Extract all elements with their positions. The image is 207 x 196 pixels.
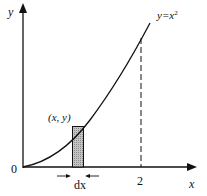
x-axis-arrow-icon bbox=[187, 163, 197, 171]
area-diagram: y x 0 2 (x, y) dx y=x2 bbox=[0, 0, 207, 196]
point-label: (x, y) bbox=[48, 111, 71, 124]
y-axis-label: y bbox=[7, 5, 14, 19]
y-axis-arrow-icon bbox=[19, 3, 27, 13]
curve-label: y=x2 bbox=[156, 9, 178, 21]
dx-label: dx bbox=[74, 178, 86, 192]
strip-rectangle bbox=[73, 127, 84, 168]
x-axis-label: x bbox=[188, 177, 195, 191]
dx-left-arrowhead-icon bbox=[66, 174, 71, 178]
origin-label: 0 bbox=[11, 162, 17, 176]
x-tick-label: 2 bbox=[137, 174, 143, 188]
parabola-curve bbox=[23, 23, 150, 167]
